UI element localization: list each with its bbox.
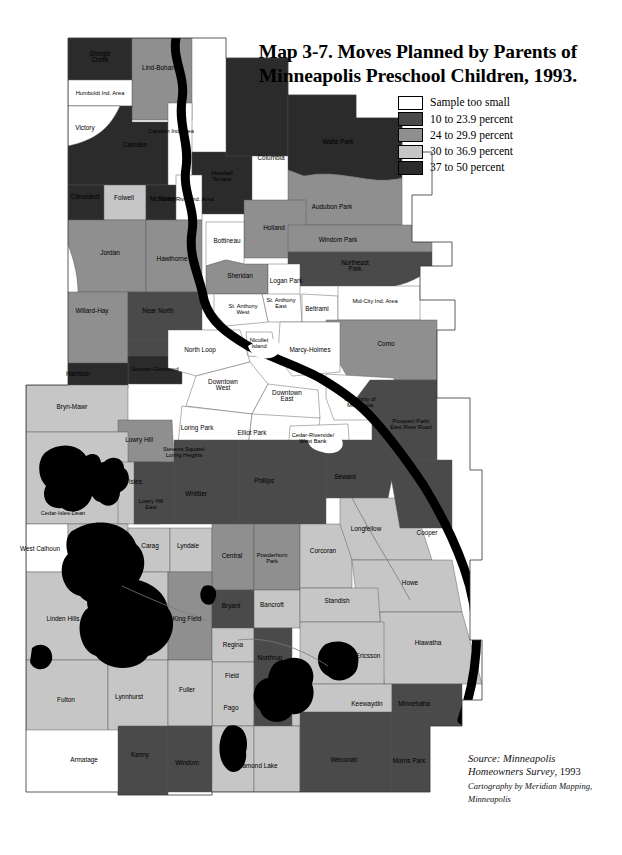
hood-willard-hay[interactable] (50, 292, 128, 370)
hood-windom-park[interactable] (288, 225, 432, 252)
legend-label: 10 to 23.9 percent (430, 114, 513, 126)
hood-label-fuller: Fuller (179, 686, 196, 693)
hood-label-hale: Hale (264, 706, 278, 713)
hood-label-elliot-park: Elliot Park (238, 429, 268, 436)
legend-item[interactable]: Sample too small (398, 95, 513, 111)
hood-label-shingle-creek: ShingleCreek (89, 49, 111, 63)
legend-label: 24 to 29.9 percent (430, 130, 513, 142)
legend-swatch-30-to-36-9 (398, 145, 423, 159)
hood-label-bottineau: Bottineau (213, 237, 240, 244)
hood-label-regina: Regina (223, 641, 244, 649)
hood-label-northrup: Northrup (258, 654, 283, 662)
hood-label-camden: Camden (123, 141, 148, 148)
hood-label-morris-park: Morris Park (393, 757, 426, 764)
hood-label-columbia: Columbia (258, 154, 285, 161)
source-survey-year: , 1993 (555, 766, 581, 777)
hood-label-king-field: King Field (173, 615, 202, 623)
legend-swatch-37-to-50 (398, 161, 423, 175)
hood-standish[interactable] (300, 588, 380, 622)
hood-label-cooper: Cooper (417, 529, 439, 537)
hood-label-mid-city-ind-area: Mid-City Ind. Area (352, 298, 398, 304)
source-survey-title: Homeowners Survey (468, 766, 555, 777)
source-credit-1: Cartography by Meridian Mapping, (468, 781, 618, 792)
hood-label-beltrami: Beltrami (305, 305, 328, 312)
hood-label-pago: Pago (224, 704, 239, 712)
hood-diamond-lake[interactable] (254, 726, 300, 792)
hood-cleveland[interactable] (68, 185, 104, 220)
hood-lyndale[interactable] (170, 528, 212, 572)
hood-bottineau[interactable] (206, 222, 244, 266)
hood-label-loring-park: Loring Park (181, 424, 214, 432)
legend-label: Sample too small (430, 97, 510, 109)
hood-label-armatage: Armatage (70, 756, 98, 764)
hood-label-diamond-lake: Diamond Lake (236, 762, 278, 769)
hood-label-fulton: Fulton (57, 696, 75, 703)
hood-lowry-hill-east[interactable] (134, 462, 174, 524)
legend-swatch-10-to-23-9 (398, 112, 423, 126)
hood-label-bancroft: Bancroft (260, 601, 284, 608)
minneapolis-choropleth-map[interactable]: ShingleCreekLind-BohanonHumboldt Ind. Ar… (0, 0, 622, 855)
legend-swatch-sample-too-small (398, 96, 423, 110)
small-lake (200, 585, 216, 604)
hood-label-east-isles: East Isles (114, 478, 142, 485)
hood-label-camden-ind-area: Camden Ind. Area (148, 128, 195, 134)
hood-label-longfellow: Longfellow (351, 525, 382, 533)
hood-label-north-river-ind-area: North River Ind. Area (160, 196, 214, 202)
hood-armatage[interactable] (118, 726, 168, 795)
hood-label-lynnhurst: Lynnhurst (115, 693, 143, 701)
legend-item[interactable]: 10 to 23.9 percent (398, 111, 513, 127)
source-note: Source: Minneapolis Homeowners Survey, 1… (468, 752, 618, 805)
hood-label-cedar-isles-dean: Cedar-Isles-Dean (41, 510, 86, 516)
hood-label-hiawatha: Hiawatha (415, 639, 442, 646)
hood-bancroft[interactable] (254, 590, 300, 628)
hood-label-lind-bohanon: Lind-Bohanon (142, 64, 182, 71)
hood-label-lowry-hill: Lowry Hill (125, 436, 153, 444)
hood-label-howe: Howe (402, 579, 419, 586)
map-figure: ShingleCreekLind-BohanonHumboldt Ind. Ar… (0, 0, 622, 855)
hood-label-kenwood: Kenwood (78, 466, 105, 473)
hood-label-waite-park: Waite Park (322, 138, 354, 145)
hood-label-phillips: Phillips (254, 477, 274, 485)
hood-folwell[interactable] (104, 185, 146, 220)
hood-label-ericsson: Ericsson (356, 652, 381, 659)
map-page: ShingleCreekLind-BohanonHumboldt Ind. Ar… (0, 0, 622, 855)
hood-label-nicollet-island: NicolletIsland (250, 336, 269, 349)
hood-label-folwell: Folwell (114, 194, 134, 201)
hood-label-seward: Seward (334, 473, 356, 480)
hood-bryant[interactable] (212, 590, 254, 628)
hood-label-east-harriet: East Harriet (107, 602, 141, 609)
title-line-1: Map 3-7. Moves Planned by Parents of (228, 40, 608, 64)
hood-mckinley[interactable] (146, 185, 176, 220)
hood-label-jordan: Jordan (100, 249, 120, 256)
hood-label-wenonah: Wenonah (330, 756, 358, 763)
hood-label-linden-hills: Linden Hills (46, 615, 79, 622)
hood-label-harrison: Harrison (66, 370, 91, 377)
legend-item[interactable]: 37 to 50 percent (398, 160, 513, 176)
source-line-2: Homeowners Survey, 1993 (468, 765, 618, 778)
legend-label: 37 to 50 percent (430, 162, 504, 174)
legend-label: 30 to 36.9 percent (430, 146, 513, 158)
hood-label-field: Field (225, 672, 239, 679)
hood-label-corcoran: Corcoran (310, 547, 337, 554)
legend-item[interactable]: 24 to 29.9 percent (398, 127, 513, 143)
source-line-1: Source: Minneapolis (468, 752, 618, 765)
hood-label-sheridan: Sheridan (227, 272, 253, 279)
hood-label-ecco: ECCO (92, 530, 110, 537)
hood-label-audubon-park: Audubon Park (312, 203, 353, 210)
hood-label-whittier: Whittier (185, 490, 208, 497)
title-line-2: Minneapolis Preschool Children, 1993. (228, 64, 608, 88)
hood-label-carag: Carag (141, 542, 159, 550)
page-title: Map 3-7. Moves Planned by Parents of Min… (228, 40, 608, 88)
legend-item[interactable]: 30 to 36.9 percent (398, 144, 513, 160)
hood-morris-park[interactable] (392, 712, 454, 792)
hood-label-victory: Victory (75, 124, 95, 132)
hood-label-west-calhoun: West Calhoun (20, 545, 60, 552)
hood-fuller[interactable] (168, 660, 212, 726)
source-credit-2: Minneapolis (468, 794, 618, 805)
hood-label-bryant: Bryant (222, 602, 241, 610)
hood-label-standish: Standish (325, 597, 350, 604)
hood-label-willard-hay: Willard-Hay (75, 307, 109, 315)
hood-label-cleveland: Cleveland (71, 193, 100, 200)
hood-wenonah[interactable] (300, 712, 392, 792)
hood-label-marshall-terrace: MarshallTerrace (211, 169, 233, 182)
